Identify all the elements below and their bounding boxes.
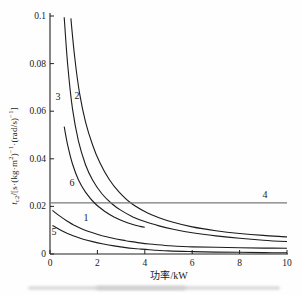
x-tick-label-8: 8 <box>237 258 242 268</box>
x-tick-label-2: 2 <box>95 258 100 268</box>
tick-labels: 024681000.020.040.060.080.1 <box>29 11 292 268</box>
y-axis-label-part: c2 <box>13 196 20 203</box>
y-axis-label-part: t <box>9 202 19 205</box>
y-tick-label-0.1: 0.1 <box>34 11 46 21</box>
curve-label-5: 5 <box>52 226 57 237</box>
x-tick-label-0: 0 <box>48 258 53 268</box>
y-tick-label-0.06: 0.06 <box>29 106 46 116</box>
y-axis-label-part: ·(rad/s) <box>9 118 19 146</box>
y-axis-label-part: −1 <box>7 110 14 117</box>
curve-label-3: 3 <box>56 91 61 102</box>
curve-label-2: 2 <box>75 90 80 101</box>
x-tick-label-10: 10 <box>282 258 292 268</box>
power-time-constant-chart: 123456 024681000.020.040.060.080.1 功率/kW <box>0 0 302 284</box>
y-tick-label-0: 0 <box>41 249 46 259</box>
curve-label-1: 1 <box>84 212 89 223</box>
curve-2 <box>71 18 287 237</box>
x-tick-label-4: 4 <box>142 258 147 268</box>
x-axis-label: 功率/kW <box>150 269 188 281</box>
y-tick-label-0.02: 0.02 <box>29 201 46 211</box>
curve-label-4: 4 <box>262 189 267 200</box>
y-axis-label-part: ) <box>9 153 19 156</box>
y-tick-label-0.08: 0.08 <box>29 59 46 69</box>
y-axis-label-part: ] <box>9 107 19 110</box>
figure-page: 123456 024681000.020.040.060.080.1 功率/kW… <box>0 0 302 295</box>
curve-6 <box>64 127 145 228</box>
x-tick-label-6: 6 <box>190 258 195 268</box>
y-axis-label-part: −1 <box>7 146 14 153</box>
curve-3 <box>64 17 287 241</box>
curve-label-6: 6 <box>70 177 75 188</box>
y-tick-label-0.04: 0.04 <box>29 154 46 164</box>
y-axis-label: tc2/[s·(kg·m2)−1·(rad/s)−1] <box>7 86 21 226</box>
y-axis-label-part: 2 <box>7 156 14 159</box>
scan-artifact-smudge-dark <box>96 286 186 290</box>
curve-labels: 123456 <box>52 90 268 237</box>
y-axis-label-part: /[s·(kg·m <box>9 160 19 196</box>
